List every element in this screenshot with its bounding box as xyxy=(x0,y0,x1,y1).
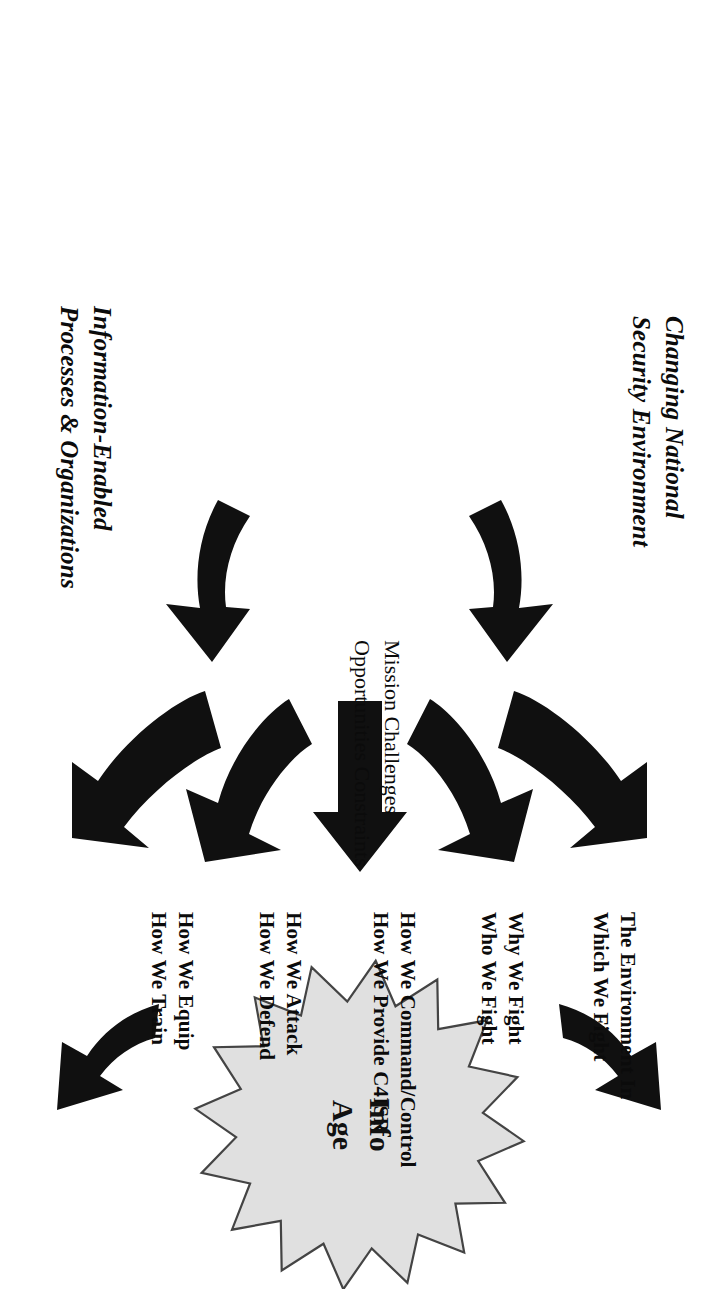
outcome-line: Who We Fight xyxy=(475,912,502,1045)
driver-line: Processes & Organizations xyxy=(53,306,86,589)
outcome-label-attack-defend: How We Attack How We Defend xyxy=(253,912,307,1060)
outcome-label-why-who: Why We Fight Who We Fight xyxy=(475,912,529,1045)
middle-line: Mission Challenges xyxy=(377,640,407,867)
outcome-label-equip-train: How We Equip How We Train xyxy=(145,912,199,1051)
outcome-line: How We Defend xyxy=(253,912,280,1060)
driver-label-changing-national-security-environment: Changing National Security Environment xyxy=(625,316,691,547)
outcome-label-environment: The Environment In Which We Fight xyxy=(587,912,641,1100)
starburst-label: Info Age xyxy=(326,1025,400,1225)
curved-arrow-star-to-driver-right xyxy=(57,1004,159,1110)
diagram-stage: The Environment In Which We Fight Why We… xyxy=(0,0,719,1289)
curved-arrow-driver-right-to-hub xyxy=(166,500,250,662)
curved-arrow-driver-left-to-hub xyxy=(469,500,553,662)
outcome-line: The Environment In xyxy=(614,912,641,1100)
driver-line: Changing National xyxy=(658,316,691,547)
outcome-line: Why We Fight xyxy=(502,912,529,1045)
driver-line: Information-Enabled xyxy=(86,306,119,589)
outcome-line: How We Attack xyxy=(280,912,307,1060)
diagram-canvas: The Environment In Which We Fight Why We… xyxy=(0,0,719,1289)
outcome-line: How We Equip xyxy=(172,912,199,1051)
driver-label-information-enabled-processes-organizations: Information-Enabled Processes & Organiza… xyxy=(53,306,119,589)
outcome-line: Which We Fight xyxy=(587,912,614,1100)
middle-text-block: Mission Challenges Opportunities Constra… xyxy=(347,640,407,867)
starburst-line: Age xyxy=(326,1025,363,1225)
driver-line: Security Environment xyxy=(625,316,658,547)
starburst-line: Info xyxy=(363,1025,400,1225)
middle-line: Opportunities Constraints xyxy=(347,640,377,867)
outcome-line: How We Train xyxy=(145,912,172,1051)
